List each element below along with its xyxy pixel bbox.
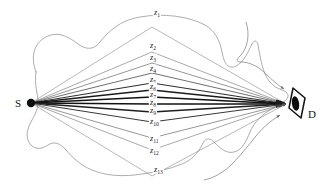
contour-arrow-upper: [237, 22, 284, 89]
destination-label: D: [308, 108, 316, 120]
contour-arrow-lower: [204, 115, 280, 180]
source-dot: [27, 99, 35, 107]
figure-root: S D z1z2z3z4z5z6z7z8z9z10z11z12z13: [0, 0, 328, 193]
source-node: S: [15, 97, 35, 109]
source-label: S: [15, 97, 21, 109]
multipath-diagram: S D z1z2z3z4z5z6z7z8z9z10z11z12z13: [0, 0, 328, 193]
destination-node: D: [289, 88, 316, 120]
propagation-path-z8: [31, 103, 286, 104]
eye-pupil-icon: [291, 96, 300, 112]
